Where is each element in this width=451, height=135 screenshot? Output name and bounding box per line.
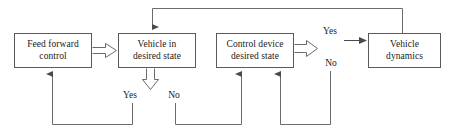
flowchart-diagram: Feed forward control Vehicle in desired … <box>0 0 451 135</box>
edge-label-no-vehicle-state: No <box>163 90 185 101</box>
node-feed-forward-control[interactable]: Feed forward control <box>14 33 92 68</box>
node-control-device-desired-state[interactable]: Control device desired state <box>216 33 294 68</box>
connector-vehicle-dynamics-to-vehicle-state <box>153 9 403 34</box>
node-feed-forward-control-line2: control <box>39 51 66 63</box>
node-vehicle-dynamics-line1: Vehicle <box>390 39 419 51</box>
connector-no-to-control-device-loop <box>281 71 331 125</box>
edge-label-no-control-device: No <box>320 58 342 69</box>
connector-vehicle-state-decision-outflow <box>143 69 159 90</box>
node-vehicle-dynamics-line2: dynamics <box>386 51 423 63</box>
node-feed-forward-control-line1: Feed forward <box>27 39 79 51</box>
edge-label-yes-vehicle-state: Yes <box>118 90 142 101</box>
node-control-device-desired-state-line1: Control device <box>227 39 284 51</box>
connector-no-to-control-device <box>176 74 242 125</box>
node-control-device-desired-state-line2: desired state <box>231 51 279 63</box>
node-vehicle-dynamics[interactable]: Vehicle dynamics <box>368 33 441 68</box>
node-vehicle-in-desired-state-line1: Vehicle in <box>138 39 177 51</box>
connector-feedforward-to-vehicle-state <box>93 44 117 58</box>
edge-label-yes-control-device: Yes <box>318 26 342 37</box>
node-vehicle-in-desired-state-line2: desired state <box>133 51 181 63</box>
connector-control-device-outflow <box>295 41 318 57</box>
node-vehicle-in-desired-state[interactable]: Vehicle in desired state <box>118 33 196 68</box>
